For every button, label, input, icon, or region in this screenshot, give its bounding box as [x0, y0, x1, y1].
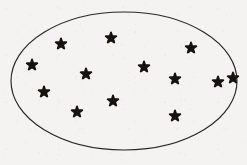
diagram-svg: [0, 0, 247, 165]
star-marker: [213, 77, 223, 87]
star-marker: [170, 111, 180, 121]
star-marker: [170, 74, 180, 84]
star-marker: [72, 107, 82, 117]
star-marker: [108, 96, 118, 106]
star-marker: [27, 60, 37, 70]
star-marker: [56, 39, 66, 49]
star-marker: [186, 43, 196, 53]
boundary-ellipse: [11, 12, 237, 150]
figure-canvas: [0, 0, 247, 165]
star-marker: [81, 69, 91, 79]
star-marker: [39, 87, 49, 97]
stars-layer: [27, 33, 238, 121]
star-marker: [106, 33, 116, 43]
star-marker: [139, 62, 149, 72]
